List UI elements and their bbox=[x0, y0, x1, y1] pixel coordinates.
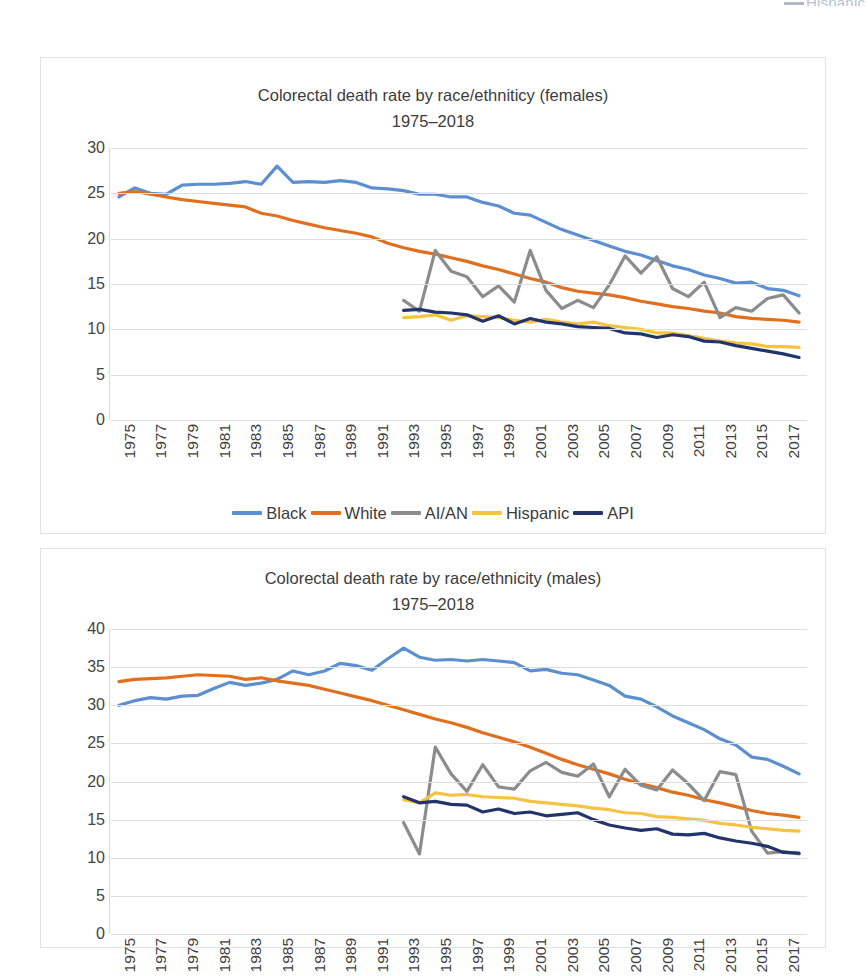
x-tick-label: 2015 bbox=[754, 938, 770, 972]
legend-item-ai-an[interactable]: AI/AN bbox=[389, 505, 470, 522]
legend-swatch-icon bbox=[391, 511, 421, 515]
plot-area-females: 051015202530 197519771979198119831985198… bbox=[77, 148, 807, 420]
chart-panel-females: Colorectal death rate by race/ethniticy … bbox=[40, 57, 826, 534]
x-tick-label: 2013 bbox=[723, 424, 739, 458]
x-tick-label: 1983 bbox=[248, 424, 264, 458]
series-line-hispanic bbox=[404, 793, 799, 831]
chart-title-females-line1: Colorectal death rate by race/ethniticy … bbox=[41, 82, 825, 108]
x-tick-label: 1985 bbox=[280, 938, 296, 972]
gridline bbox=[111, 239, 807, 240]
y-axis-females: 051015202530 bbox=[77, 148, 111, 420]
y-axis-males: 0510152025303540 bbox=[77, 629, 111, 934]
y-tick-label: 40 bbox=[87, 621, 105, 637]
series-line-white bbox=[119, 192, 799, 323]
plot-canvas-females bbox=[111, 148, 807, 420]
x-tick-label: 2009 bbox=[660, 424, 676, 458]
legend-swatch-icon bbox=[232, 511, 262, 515]
x-tick-label: 1981 bbox=[217, 938, 233, 972]
x-tick-label: 1997 bbox=[470, 938, 486, 972]
x-tick-label: 1999 bbox=[501, 424, 517, 458]
x-tick-label: 1993 bbox=[406, 938, 422, 972]
legend-label: Black bbox=[266, 505, 306, 522]
x-tick-label: 1985 bbox=[280, 424, 296, 458]
legend-item-api[interactable]: API bbox=[571, 505, 636, 522]
x-tick-label: 2017 bbox=[786, 938, 802, 972]
legend-item-white[interactable]: White bbox=[309, 505, 389, 522]
x-tick-label: 1987 bbox=[312, 938, 328, 972]
gridline bbox=[111, 667, 807, 668]
x-tick-label: 1975 bbox=[122, 938, 138, 972]
chart-title-females-line2: 1975–2018 bbox=[41, 108, 825, 134]
x-tick-label: 2009 bbox=[660, 938, 676, 972]
x-tick-label: 1975 bbox=[122, 424, 138, 458]
legend-label: API bbox=[607, 505, 634, 522]
y-tick-label: 0 bbox=[96, 412, 105, 428]
x-tick-label: 1983 bbox=[248, 938, 264, 972]
x-tick-label: 2015 bbox=[754, 424, 770, 458]
x-tick-label: 1977 bbox=[153, 424, 169, 458]
x-tick-label: 2007 bbox=[628, 938, 644, 972]
x-tick-label: 1991 bbox=[375, 424, 391, 458]
y-axis-line-females bbox=[109, 148, 110, 420]
chart-title-males-line1: Colorectal death rate by race/ethnicity … bbox=[41, 565, 825, 591]
x-tick-label: 2005 bbox=[596, 938, 612, 972]
x-tick-label: 2017 bbox=[786, 424, 802, 458]
legend-swatch-icon bbox=[311, 511, 341, 515]
gridline bbox=[111, 629, 807, 630]
gridline bbox=[111, 705, 807, 706]
gridline bbox=[111, 193, 807, 194]
gridline bbox=[111, 782, 807, 783]
legend-females: BlackWhiteAI/ANHispanicAPI bbox=[41, 505, 825, 522]
x-tick-label: 1991 bbox=[375, 938, 391, 972]
x-tick-label: 1997 bbox=[470, 424, 486, 458]
gridline bbox=[111, 148, 807, 149]
series-line-ai-an bbox=[404, 747, 799, 854]
x-tick-label: 1979 bbox=[185, 424, 201, 458]
legend-swatch-icon bbox=[472, 511, 502, 515]
chart-title-males-line2: 1975–2018 bbox=[41, 591, 825, 617]
y-tick-label: 10 bbox=[87, 321, 105, 337]
x-tick-label: 2003 bbox=[565, 424, 581, 458]
y-tick-label: 20 bbox=[87, 231, 105, 247]
y-tick-label: 15 bbox=[87, 276, 105, 292]
x-tick-label: 1993 bbox=[406, 424, 422, 458]
x-tick-label: 1977 bbox=[153, 938, 169, 972]
legend-dash-icon bbox=[784, 2, 804, 5]
y-tick-label: 10 bbox=[87, 850, 105, 866]
y-tick-label: 30 bbox=[87, 697, 105, 713]
x-tick-label: 2007 bbox=[628, 424, 644, 458]
series-line-black bbox=[119, 166, 799, 296]
x-tick-label: 2003 bbox=[565, 938, 581, 972]
plot-canvas-males bbox=[111, 629, 807, 934]
x-tick-label: 2011 bbox=[691, 938, 707, 971]
y-tick-label: 0 bbox=[96, 926, 105, 942]
gridline bbox=[111, 858, 807, 859]
x-axis-females: 1975197719791981198319851987198919911993… bbox=[111, 420, 807, 482]
y-tick-label: 25 bbox=[87, 735, 105, 751]
gridline bbox=[111, 896, 807, 897]
gridline bbox=[111, 329, 807, 330]
x-tick-label: 2011 bbox=[691, 424, 707, 457]
plot-area-males: 0510152025303540 19751977197919811983198… bbox=[77, 629, 807, 934]
gridline bbox=[111, 743, 807, 744]
x-tick-label: 1989 bbox=[343, 424, 359, 458]
chart-title-females: Colorectal death rate by race/ethniticy … bbox=[41, 58, 825, 134]
y-tick-label: 15 bbox=[87, 812, 105, 828]
x-tick-label: 1999 bbox=[501, 938, 517, 972]
legend-swatch-icon bbox=[573, 511, 603, 515]
x-tick-label: 2001 bbox=[533, 424, 549, 458]
cut-off-legend-label: Hispanic bbox=[806, 0, 865, 6]
gridline bbox=[111, 820, 807, 821]
legend-label: Hispanic bbox=[506, 505, 569, 522]
y-tick-label: 5 bbox=[96, 367, 105, 383]
chart-panel-males: Colorectal death rate by race/ethnicity … bbox=[40, 548, 826, 948]
legend-item-hispanic[interactable]: Hispanic bbox=[470, 505, 571, 522]
x-tick-label: 1987 bbox=[312, 424, 328, 458]
x-tick-label: 1979 bbox=[185, 938, 201, 972]
y-tick-label: 35 bbox=[87, 659, 105, 675]
y-tick-label: 25 bbox=[87, 185, 105, 201]
series-line-hispanic bbox=[404, 315, 799, 348]
legend-item-black[interactable]: Black bbox=[230, 505, 308, 522]
x-tick-label: 2013 bbox=[723, 938, 739, 972]
gridline bbox=[111, 375, 807, 376]
